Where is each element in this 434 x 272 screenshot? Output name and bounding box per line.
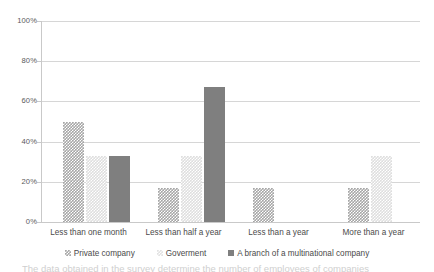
bar-private-3[interactable] <box>348 188 369 222</box>
bar-private-0[interactable] <box>63 122 84 223</box>
ytick-label-80: 80% <box>1 57 37 65</box>
gridline-0-baseline <box>41 222 420 223</box>
bar-groups <box>41 21 420 222</box>
bar-group-less-than-a-year <box>253 21 326 222</box>
bar-government-0[interactable] <box>86 156 107 222</box>
ytick-label-60: 60% <box>1 97 37 105</box>
legend-item-multinational-branch[interactable]: A branch of a multinational company <box>228 249 369 258</box>
bar-group-more-than-a-year <box>348 21 421 222</box>
x-label-1: Less than half a year <box>136 228 231 237</box>
bar-multinational-0[interactable] <box>109 156 130 222</box>
ytick-label-0: 0% <box>1 218 37 226</box>
checkered-dark-square-icon <box>65 250 71 256</box>
x-label-3: More than a year <box>326 228 421 237</box>
x-axis-category-labels: Less than one month Less than half a yea… <box>41 228 420 242</box>
bar-group-less-than-one-month <box>63 21 136 222</box>
legend-label-private-company: Private company <box>74 249 135 258</box>
ytick-label-100: 100% <box>1 17 37 25</box>
checkered-light-square-icon <box>157 250 163 256</box>
bar-multinational-1[interactable] <box>204 87 225 222</box>
legend-item-private-company[interactable]: Private company <box>65 249 135 258</box>
figure-caption-cutoff: The data obtained in the survey determin… <box>22 263 418 272</box>
ytick-label-40: 40% <box>1 138 37 146</box>
bar-group-less-than-half-a-year <box>158 21 231 222</box>
bar-chart-figure: 100% 80% 60% 40% 20% 0% Les <box>0 0 434 272</box>
bar-government-3[interactable] <box>371 156 392 222</box>
x-label-2: Less than a year <box>231 228 326 237</box>
solid-gray-square-icon <box>228 250 234 256</box>
ytick-label-20: 20% <box>1 178 37 186</box>
legend-label-goverment: Goverment <box>166 249 207 258</box>
legend-label-multinational-branch: A branch of a multinational company <box>237 249 369 258</box>
bar-private-1[interactable] <box>158 188 179 222</box>
x-label-0: Less than one month <box>41 228 136 237</box>
chart-legend: Private company Goverment A branch of a … <box>0 246 434 260</box>
bar-private-2[interactable] <box>253 188 274 222</box>
bar-government-1[interactable] <box>181 156 202 222</box>
legend-item-goverment[interactable]: Goverment <box>157 249 207 258</box>
